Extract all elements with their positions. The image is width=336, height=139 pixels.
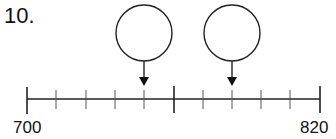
number-line-diagram xyxy=(0,0,336,139)
arrow-head-icon xyxy=(139,77,149,86)
arrow-head-icon xyxy=(227,77,237,86)
answer-circle-1[interactable] xyxy=(116,5,172,61)
start-label: 700 xyxy=(13,118,41,138)
end-label: 820 xyxy=(300,118,328,138)
answer-circle-2[interactable] xyxy=(204,5,260,61)
